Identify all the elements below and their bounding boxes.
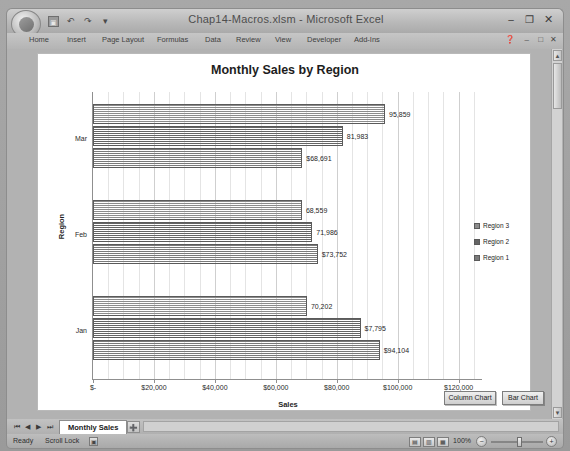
chart-data-label: $68,691 bbox=[302, 155, 331, 162]
chart-title: Monthly Sales by Region bbox=[38, 63, 532, 77]
zoom-in-button[interactable]: + bbox=[546, 436, 557, 447]
horizontal-scrollbar[interactable] bbox=[143, 421, 559, 432]
vertical-scrollbar-thumb[interactable] bbox=[553, 63, 562, 109]
restore-workbook-button[interactable]: □ bbox=[538, 35, 543, 44]
tab-page-layout[interactable]: Page Layout bbox=[102, 35, 144, 44]
scroll-down-icon[interactable]: ▼ bbox=[553, 407, 562, 418]
chart-data-label: 71,986 bbox=[312, 229, 337, 236]
chart-data-label: $7,795 bbox=[361, 325, 386, 332]
chart-data-label: $73,752 bbox=[318, 251, 347, 258]
chart-bar-row: 95,859 bbox=[93, 104, 482, 124]
legend-entry[interactable]: Region 1 bbox=[474, 254, 522, 261]
tab-review[interactable]: Review bbox=[236, 35, 261, 44]
close-window-button[interactable]: ✕ bbox=[540, 12, 556, 27]
zoom-slider-thumb[interactable] bbox=[517, 437, 522, 447]
record-macro-icon[interactable]: ▣ bbox=[89, 437, 98, 446]
legend-entry[interactable]: Region 2 bbox=[474, 238, 522, 245]
y-axis-category-label: Mar bbox=[41, 135, 87, 142]
scroll-up-icon[interactable]: ▲ bbox=[553, 50, 562, 61]
chart-bar-row: 68,559 bbox=[93, 200, 482, 220]
last-sheet-icon[interactable]: ⏭ bbox=[44, 421, 55, 432]
chart-data-label: $94,104 bbox=[380, 347, 409, 354]
status-mode-text: Ready bbox=[13, 437, 33, 444]
restore-window-button[interactable]: ❐ bbox=[521, 12, 537, 27]
legend-label: Region 3 bbox=[483, 222, 509, 229]
first-sheet-icon[interactable]: ⏮ bbox=[11, 421, 22, 432]
next-sheet-icon[interactable]: ▶ bbox=[33, 421, 44, 432]
close-workbook-button[interactable]: ✕ bbox=[550, 35, 557, 44]
tab-data[interactable]: Data bbox=[205, 35, 221, 44]
normal-view-icon[interactable]: ▤ bbox=[409, 437, 421, 447]
chart-bar[interactable] bbox=[93, 244, 318, 264]
chart-category-group: Feb68,55971,986$73,752 bbox=[93, 188, 482, 284]
x-axis-tick-label: $120,000 bbox=[429, 384, 489, 391]
chart-data-label: 70,202 bbox=[307, 303, 332, 310]
help-icon[interactable]: ❓ bbox=[505, 35, 515, 44]
chart-category-group: Jan70,202$7,795$94,104 bbox=[93, 284, 482, 380]
previous-sheet-icon[interactable]: ◀ bbox=[22, 421, 33, 432]
minimize-window-button[interactable]: – bbox=[503, 12, 519, 27]
x-axis-tick-label: $- bbox=[63, 384, 123, 391]
tab-home[interactable]: Home bbox=[29, 35, 49, 44]
tab-formulas[interactable]: Formulas bbox=[157, 35, 188, 44]
legend-label: Region 2 bbox=[483, 238, 509, 245]
tab-view[interactable]: View bbox=[275, 35, 291, 44]
legend-swatch-icon bbox=[474, 239, 480, 245]
sheet-tab-monthly-sales[interactable]: Monthly Sales bbox=[59, 420, 127, 434]
ribbon-tab-strip: Home Insert Page Layout Formulas Data Re… bbox=[6, 33, 564, 49]
x-axis-tick-label: $80,000 bbox=[307, 384, 367, 391]
x-axis-title: Sales bbox=[93, 400, 483, 409]
embedded-chart-object[interactable]: Monthly Sales by Region Region Sales $-$… bbox=[37, 53, 531, 411]
x-axis-tick-label: $60,000 bbox=[246, 384, 306, 391]
window-title: Chap14-Macros.xlsm - Microsoft Excel bbox=[7, 13, 565, 25]
tab-developer[interactable]: Developer bbox=[307, 35, 341, 44]
x-axis-tick-label: $40,000 bbox=[185, 384, 245, 391]
status-bar: Ready Scroll Lock ▣ ▤ ▥ ▦ 100% − + bbox=[6, 434, 564, 449]
chart-data-label: 68,559 bbox=[302, 207, 327, 214]
legend-label: Region 1 bbox=[483, 254, 509, 261]
page-break-view-icon[interactable]: ▦ bbox=[437, 437, 449, 447]
page-layout-view-icon[interactable]: ▥ bbox=[423, 437, 435, 447]
chart-bar[interactable] bbox=[93, 222, 312, 242]
excel-application-window: ▣ ↶ ↷ ▾ Chap14-Macros.xlsm - Microsoft E… bbox=[0, 0, 570, 451]
tab-insert[interactable]: Insert bbox=[67, 35, 86, 44]
chart-bar[interactable] bbox=[93, 340, 380, 360]
chart-bar-row: $73,752 bbox=[93, 244, 482, 264]
x-axis-tick-label: $100,000 bbox=[368, 384, 428, 391]
y-axis-category-label: Feb bbox=[41, 231, 87, 238]
chart-bar[interactable] bbox=[93, 318, 361, 338]
chart-bar-row: 70,202 bbox=[93, 296, 482, 316]
legend-swatch-icon bbox=[474, 255, 480, 261]
insert-worksheet-icon[interactable]: ➕ bbox=[127, 421, 140, 433]
tab-add-ins[interactable]: Add-Ins bbox=[354, 35, 380, 44]
chart-plot-area: Region Sales $-$20,000$40,000$60,000$80,… bbox=[92, 92, 482, 380]
chart-bar-row: 71,986 bbox=[93, 222, 482, 242]
title-bar: ▣ ↶ ↷ ▾ Chap14-Macros.xlsm - Microsoft E… bbox=[6, 8, 564, 33]
zoom-level-label[interactable]: 100% bbox=[453, 437, 471, 444]
chart-data-label: 81,983 bbox=[343, 133, 368, 140]
chart-legend[interactable]: Region 3Region 2Region 1 bbox=[474, 222, 522, 270]
chart-bar-row: $94,104 bbox=[93, 340, 482, 360]
chart-bar-row: 81,983 bbox=[93, 126, 482, 146]
bar-chart-button[interactable]: Bar Chart bbox=[502, 391, 544, 405]
worksheet-area: Monthly Sales by Region Region Sales $-$… bbox=[6, 49, 564, 419]
chart-bar[interactable] bbox=[93, 296, 307, 316]
chart-bar[interactable] bbox=[93, 126, 343, 146]
x-axis-tick-label: $20,000 bbox=[124, 384, 184, 391]
chart-category-group: Mar95,85981,983$68,691 bbox=[93, 92, 482, 188]
column-chart-button[interactable]: Column Chart bbox=[444, 391, 496, 405]
chart-bar[interactable] bbox=[93, 200, 302, 220]
scroll-lock-indicator: Scroll Lock bbox=[45, 437, 79, 444]
legend-swatch-icon bbox=[474, 223, 480, 229]
vertical-scrollbar[interactable]: ▲ ▼ bbox=[551, 49, 562, 419]
chart-data-label: 95,859 bbox=[385, 111, 410, 118]
minimize-workbook-button[interactable]: – bbox=[525, 35, 529, 44]
chart-bar[interactable] bbox=[93, 104, 385, 124]
zoom-out-button[interactable]: − bbox=[476, 436, 487, 447]
chart-bar-row: $68,691 bbox=[93, 148, 482, 168]
y-axis-category-label: Jan bbox=[41, 327, 87, 334]
legend-entry[interactable]: Region 3 bbox=[474, 222, 522, 229]
sheet-tab-bar: ⏮ ◀ ▶ ⏭ Monthly Sales ➕ bbox=[6, 419, 564, 434]
chart-bar-row: $7,795 bbox=[93, 318, 482, 338]
chart-bar[interactable] bbox=[93, 148, 302, 168]
